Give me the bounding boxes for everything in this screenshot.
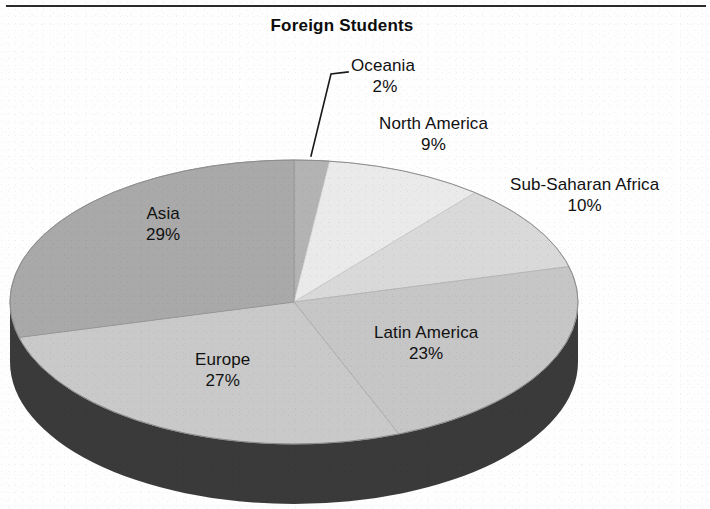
slice-label-sub-saharan-africa: Sub-Saharan Africa 10% bbox=[510, 174, 659, 217]
slice-label-latin-america-name: Latin America bbox=[374, 323, 478, 342]
slice-label-europe-name: Europe bbox=[195, 350, 250, 369]
slice-label-europe: Europe 27% bbox=[195, 349, 250, 392]
slice-label-asia: Asia 29% bbox=[146, 203, 180, 246]
slice-label-asia-name: Asia bbox=[146, 204, 179, 223]
slice-label-oceania-value: 2% bbox=[351, 76, 419, 97]
slice-label-north-america: North America 9% bbox=[379, 113, 488, 156]
slice-label-latin-america-value: 23% bbox=[374, 343, 478, 364]
slice-label-sub-saharan-africa-name: Sub-Saharan Africa bbox=[510, 175, 659, 194]
slice-label-asia-value: 29% bbox=[146, 224, 180, 245]
slice-label-oceania: Oceania 2% bbox=[351, 55, 419, 98]
pie-top-face bbox=[10, 160, 578, 444]
oceania-leader-line bbox=[311, 72, 348, 156]
slice-label-north-america-name: North America bbox=[379, 114, 488, 133]
chart-page: Foreign Students bbox=[0, 0, 710, 509]
slice-label-latin-america: Latin America 23% bbox=[374, 322, 478, 365]
slice-label-sub-saharan-africa-value: 10% bbox=[510, 195, 659, 216]
slice-label-europe-value: 27% bbox=[195, 370, 250, 391]
slice-label-north-america-value: 9% bbox=[379, 134, 488, 155]
slice-label-oceania-name: Oceania bbox=[351, 56, 415, 75]
